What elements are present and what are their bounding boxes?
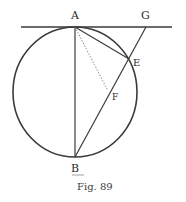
label-F: F bbox=[112, 92, 118, 102]
label-B: B bbox=[71, 162, 79, 175]
chord-AE bbox=[75, 27, 129, 59]
label-E: E bbox=[133, 57, 140, 68]
label-A: A bbox=[70, 9, 80, 22]
secant-GB bbox=[75, 27, 146, 157]
figure-caption: Fig. 89 bbox=[77, 181, 113, 192]
geometry-figure: A G E F B Fig. 89 bbox=[0, 0, 186, 202]
label-G: G bbox=[141, 9, 150, 22]
